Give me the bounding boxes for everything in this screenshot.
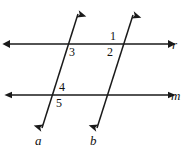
angle-label-5: 5 [56, 97, 62, 109]
line-label-a: a [35, 134, 42, 147]
angle-label-3: 3 [69, 46, 75, 58]
geometry-figure: 1 2 3 4 5 r m a b [0, 0, 192, 151]
line-label-m: m [171, 89, 180, 102]
geometry-diagram-canvas [0, 0, 192, 151]
line-label-b: b [90, 134, 97, 147]
angle-label-1: 1 [110, 30, 116, 42]
angle-label-4: 4 [59, 81, 65, 93]
line-a-stroke [42, 14, 78, 128]
line-label-r: r [172, 38, 177, 51]
line-a [42, 14, 78, 128]
angle-label-2: 2 [107, 46, 113, 58]
